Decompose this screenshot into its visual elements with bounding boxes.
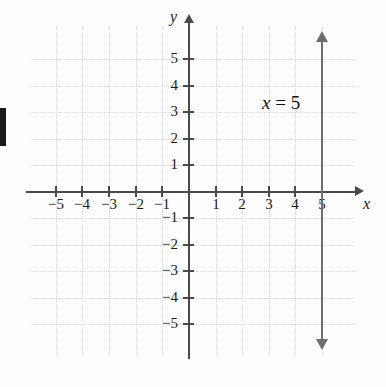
y-axis-tick (183, 323, 194, 325)
plot-line-arrow-down-icon (316, 339, 328, 350)
y-axis-tick (183, 244, 194, 246)
x-axis-tick-label: 4 (280, 197, 310, 212)
y-axis-tick (183, 297, 194, 299)
y-axis-tick-label: −1 (148, 210, 178, 225)
equation-operator: = (275, 92, 286, 113)
plot-line-x-equals-5 (321, 40, 323, 340)
x-axis-tick-label: 2 (227, 197, 257, 212)
y-axis-tick-label: −3 (148, 263, 178, 278)
equation-value: 5 (291, 92, 301, 113)
equation-label: x = 5 (262, 92, 300, 114)
x-axis-tick-label: −3 (94, 197, 124, 212)
y-axis-tick (183, 217, 194, 219)
y-axis-tick-label: 3 (148, 104, 178, 119)
y-axis-label: y (170, 8, 177, 26)
y-axis-tick-label: −5 (148, 316, 178, 331)
x-axis (26, 191, 356, 193)
y-axis-tick (183, 138, 194, 140)
y-axis-tick-label: 5 (148, 51, 178, 66)
plot-line-arrow-up-icon (316, 31, 328, 42)
x-axis-tick-label: −4 (67, 197, 97, 212)
y-axis-tick (183, 164, 194, 166)
y-axis (188, 22, 190, 359)
y-axis-tick (183, 85, 194, 87)
x-axis-label: x (363, 195, 370, 213)
y-axis-tick-label: 4 (148, 78, 178, 93)
y-axis-tick-label: 2 (148, 131, 178, 146)
y-axis-tick-label: −4 (148, 290, 178, 305)
y-axis-tick-label: 1 (148, 157, 178, 172)
y-axis-tick (183, 111, 194, 113)
y-axis-arrow-icon (184, 14, 194, 23)
coordinate-plane-figure: −5−4−3−2−11234554321−1−2−3−4−5 x y x = 5 (0, 0, 386, 387)
y-axis-tick (183, 270, 194, 272)
y-axis-tick-label: −2 (148, 237, 178, 252)
margin-artifact (0, 108, 6, 146)
y-axis-tick (183, 58, 194, 60)
